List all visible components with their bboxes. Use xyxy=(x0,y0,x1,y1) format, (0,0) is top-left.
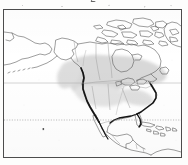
figure-container: g xyxy=(0,0,188,165)
map-frame[interactable] xyxy=(3,9,182,158)
north-america-map[interactable] xyxy=(4,10,181,157)
ocean-point-marker-east xyxy=(135,115,136,117)
ocean-point-marker-west xyxy=(43,128,45,130)
clipped-caption-above: g xyxy=(0,0,188,2)
